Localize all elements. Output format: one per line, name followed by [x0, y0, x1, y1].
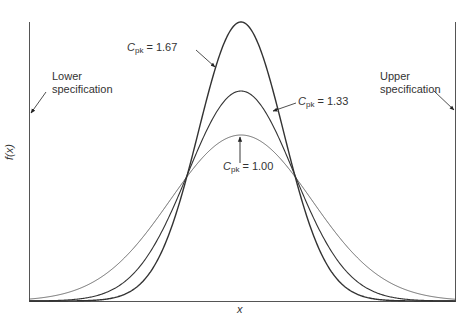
- cpk133-label: Cpk = 1.33: [298, 95, 348, 111]
- upper-spec-label: Upper specification: [380, 70, 441, 96]
- cpk167-label: Cpk = 1.67: [127, 41, 177, 57]
- cpk167-arrow: [196, 50, 215, 67]
- lower-spec-label: Lower specification: [52, 70, 113, 96]
- lower-spec-label-line2: specification: [52, 83, 113, 96]
- c-letter: C: [223, 160, 231, 172]
- cpk100-value: = 1.00: [239, 160, 273, 172]
- lower-spec-label-line1: Lower: [52, 70, 113, 83]
- y-axis-label: f(x): [3, 144, 16, 160]
- lower-spec-arrow: [31, 92, 46, 113]
- upper-spec-label-line1: Upper: [380, 70, 441, 83]
- cpk133-value: = 1.33: [314, 95, 348, 107]
- curve-133: [30, 91, 456, 301]
- x-axis-label: x: [237, 303, 243, 316]
- c-letter: C: [127, 41, 135, 53]
- cpk167-value: = 1.67: [143, 41, 177, 53]
- c-letter: C: [298, 95, 306, 107]
- upper-spec-label-line2: specification: [380, 83, 441, 96]
- cpk100-label: Cpk = 1.00: [223, 160, 273, 176]
